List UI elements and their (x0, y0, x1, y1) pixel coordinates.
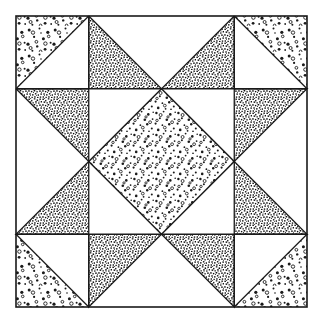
quilt-block-canvas (0, 0, 323, 324)
quilt-block-figure (0, 0, 323, 324)
quilt-block (16, 16, 307, 307)
